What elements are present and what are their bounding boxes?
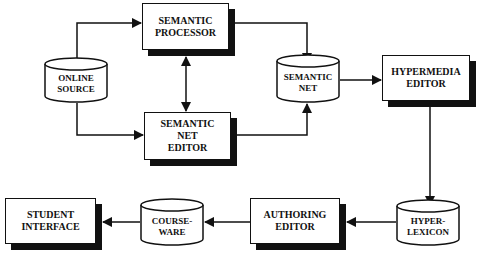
edge-online-source-to-semantic-processor	[77, 23, 141, 60]
semantic-processor-label-1: SEMANTIC	[159, 15, 213, 27]
hypermedia-editor-box: HYPERMEDIA EDITOR	[382, 55, 470, 101]
courseware-label-1: COURSE-	[140, 216, 204, 227]
authoring-editor-label-1: AUTHORING	[264, 209, 327, 221]
courseware-cylinder: COURSE- WARE	[140, 198, 204, 246]
hyper-lexicon-cylinder: HYPER- LEXICON	[396, 199, 460, 246]
semantic-net-editor-label-3: EDITOR	[168, 142, 207, 154]
authoring-editor-box: AUTHORING EDITOR	[250, 198, 340, 244]
semantic-net-cylinder: SEMANTIC NET	[276, 54, 340, 103]
semantic-processor-box: SEMANTIC PROCESSOR	[142, 3, 229, 50]
student-interface-box: STUDENT INTERFACE	[5, 198, 96, 244]
hypermedia-editor-label-2: EDITOR	[406, 78, 445, 90]
semantic-net-label-2: NET	[276, 83, 340, 94]
online-source-label-1: ONLINE	[44, 73, 108, 84]
hypermedia-editor-label-1: HYPERMEDIA	[391, 66, 460, 78]
semantic-net-editor-label-2: NET	[177, 130, 198, 142]
edge-net-editor-to-semantic-net	[236, 104, 307, 135]
online-source-label-2: SOURCE	[44, 84, 108, 95]
semantic-net-editor-label-1: SEMANTIC	[161, 118, 215, 130]
student-interface-label-1: STUDENT	[27, 209, 74, 221]
student-interface-label-2: INTERFACE	[21, 221, 79, 233]
semantic-processor-label-2: PROCESSOR	[155, 27, 216, 39]
semantic-net-editor-box: SEMANTIC NET EDITOR	[144, 112, 231, 160]
semantic-net-label-1: SEMANTIC	[276, 72, 340, 83]
courseware-label-2: WARE	[140, 227, 204, 238]
hyper-lexicon-label-2: LEXICON	[396, 227, 460, 238]
hyper-lexicon-label-1: HYPER-	[396, 216, 460, 227]
edge-online-source-to-semantic-net-editor	[77, 103, 143, 135]
online-source-cylinder: ONLINE SOURCE	[44, 57, 108, 103]
authoring-editor-label-2: EDITOR	[275, 221, 314, 233]
